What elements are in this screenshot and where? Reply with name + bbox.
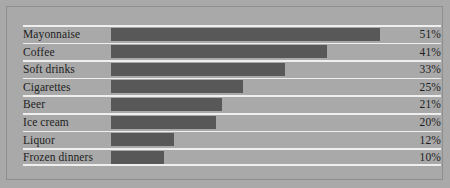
value-label: 33%	[405, 62, 441, 77]
bar-track	[111, 28, 401, 41]
bar-track	[111, 63, 401, 76]
value-label: 41%	[405, 45, 441, 60]
bar	[111, 133, 174, 146]
value-label: 12%	[405, 133, 441, 148]
category-label: Liquor	[23, 133, 111, 148]
bar	[111, 63, 285, 76]
chart-row: Soft drinks 33%	[23, 60, 441, 78]
value-label: 21%	[405, 97, 441, 112]
bar-chart-screenshot: Mayonnaise 51% Coffee 41% Soft drinks	[0, 0, 450, 188]
chart-row: Ice cream 20%	[23, 113, 441, 131]
category-label: Ice cream	[23, 115, 111, 130]
bar	[111, 151, 164, 164]
category-label: Cigarettes	[23, 80, 111, 95]
chart-row: Mayonnaise 51%	[23, 25, 441, 43]
category-label: Coffee	[23, 45, 111, 60]
chart-row: Frozen dinners 10%	[23, 148, 441, 166]
bar	[111, 28, 380, 41]
bar-track	[111, 133, 401, 146]
value-label: 10%	[405, 150, 441, 165]
value-label: 51%	[405, 27, 441, 42]
category-label: Beer	[23, 97, 111, 112]
bar	[111, 98, 222, 111]
bar-track	[111, 151, 401, 164]
category-label: Frozen dinners	[23, 150, 111, 165]
bar-track	[111, 98, 401, 111]
chart-row: Beer 21%	[23, 95, 441, 113]
bar	[111, 45, 327, 58]
category-label: Mayonnaise	[23, 27, 111, 42]
bar	[111, 116, 216, 129]
chart-row: Coffee 41%	[23, 43, 441, 61]
bar-track	[111, 116, 401, 129]
bar	[111, 80, 243, 93]
category-label: Soft drinks	[23, 62, 111, 77]
chart-row: Cigarettes 25%	[23, 78, 441, 96]
horizontal-bar-chart: Mayonnaise 51% Coffee 41% Soft drinks	[23, 25, 441, 173]
value-label: 25%	[405, 80, 441, 95]
bar-track	[111, 80, 401, 93]
bar-track	[111, 45, 401, 58]
value-label: 20%	[405, 115, 441, 130]
chart-row: Liquor 12%	[23, 131, 441, 149]
chart-frame: Mayonnaise 51% Coffee 41% Soft drinks	[6, 6, 443, 180]
